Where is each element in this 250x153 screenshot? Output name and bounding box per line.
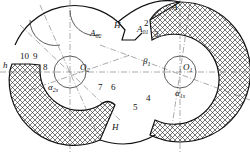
point-2: 2 bbox=[144, 18, 149, 28]
label-alpha2s: α2s bbox=[48, 82, 59, 93]
rotor-diagram: A A01 A02 H H h O1 O2 β1 α1s α2s 2 3 4 5… bbox=[0, 0, 250, 153]
label-O2: O2 bbox=[80, 62, 90, 73]
point-10: 10 bbox=[20, 51, 30, 61]
label-beta1: β1 bbox=[142, 56, 150, 67]
point-5: 5 bbox=[133, 102, 138, 112]
point-3: 3 bbox=[154, 29, 159, 39]
label-A: A bbox=[171, 2, 178, 12]
point-8: 8 bbox=[43, 62, 48, 72]
label-A02: A02 bbox=[89, 28, 102, 39]
point-6: 6 bbox=[111, 82, 116, 92]
label-O1: O1 bbox=[183, 62, 193, 73]
label-H-bottom: H bbox=[111, 122, 119, 132]
label-alpha1s: α1s bbox=[175, 88, 186, 99]
point-9: 9 bbox=[33, 51, 38, 61]
point-7: 7 bbox=[98, 82, 103, 92]
female-rotor bbox=[9, 64, 115, 145]
point-4: 4 bbox=[146, 93, 151, 103]
label-h: h bbox=[3, 60, 8, 70]
label-H-top: H bbox=[113, 20, 121, 30]
